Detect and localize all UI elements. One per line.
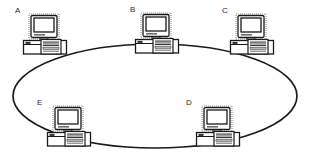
computer-node-b[interactable] <box>136 13 179 53</box>
node-label-a: A <box>15 7 20 15</box>
computer-node-a[interactable] <box>24 14 67 54</box>
node-label-b: B <box>130 6 135 14</box>
node-label-c: C <box>222 7 228 15</box>
node-label-e: E <box>37 99 42 107</box>
computers-layer <box>0 0 311 158</box>
ring-topology-diagram: A B C D E <box>0 0 311 158</box>
computer-node-d[interactable] <box>197 106 240 146</box>
computer-node-c[interactable] <box>231 14 274 54</box>
node-label-d: D <box>186 99 192 107</box>
computer-node-e[interactable] <box>48 106 91 146</box>
